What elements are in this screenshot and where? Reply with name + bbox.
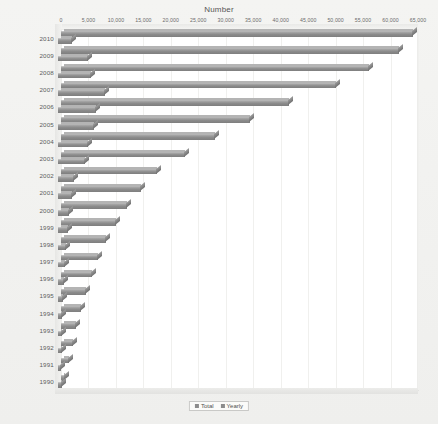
bar-top-face bbox=[61, 105, 96, 108]
x-tick-label: 55,000 bbox=[355, 17, 371, 23]
bar-top-face bbox=[64, 132, 215, 135]
bar-yearly-1996 bbox=[58, 279, 64, 285]
x-axis-tick-labels: 05,00010,00015,00020,00025,00030,00035,0… bbox=[0, 17, 438, 29]
bar-yearly-2007 bbox=[58, 90, 105, 96]
x-tick-label: 60,000 bbox=[382, 17, 398, 23]
x-tick-label: 15,000 bbox=[135, 17, 151, 23]
x-tick-label: 40,000 bbox=[272, 17, 288, 23]
bar-end-cap bbox=[61, 309, 66, 318]
y-tick-label: 2004 bbox=[39, 137, 54, 144]
bar-yearly-2003 bbox=[58, 159, 85, 165]
y-tick-label: 1990 bbox=[39, 378, 54, 385]
bar-yearly-2004 bbox=[58, 142, 88, 148]
bar-top-face bbox=[61, 54, 88, 57]
y-tick-label: 1997 bbox=[39, 258, 54, 265]
x-axis-title: Number bbox=[0, 5, 438, 14]
bar-top-face bbox=[64, 81, 336, 84]
bar-top-face bbox=[64, 201, 127, 204]
bar-top-face bbox=[64, 64, 369, 67]
bar-yearly-2010 bbox=[58, 38, 72, 44]
bar-top-face bbox=[61, 88, 105, 91]
y-tick-label: 2009 bbox=[39, 51, 54, 58]
x-tick-label: 25,000 bbox=[190, 17, 206, 23]
bar-yearly-2005 bbox=[58, 124, 94, 130]
bar-top-face bbox=[64, 253, 98, 256]
chart-legend[interactable]: TotalYearly bbox=[189, 401, 249, 411]
bar-end-cap bbox=[67, 224, 72, 233]
y-tick-label: 2010 bbox=[39, 34, 54, 41]
bar-top-face bbox=[64, 235, 106, 238]
bar-top-face bbox=[64, 167, 157, 170]
bar-yearly-1991 bbox=[58, 365, 61, 371]
legend-item-yearly[interactable]: Yearly bbox=[221, 403, 243, 409]
bar-top-face bbox=[64, 150, 185, 153]
y-tick-label: 1991 bbox=[39, 361, 54, 368]
x-tick-label: 20,000 bbox=[163, 17, 179, 23]
y-tick-label: 2003 bbox=[39, 154, 54, 161]
y-tick-label: 1999 bbox=[39, 223, 54, 230]
gridline bbox=[418, 29, 419, 390]
y-tick-label: 2007 bbox=[39, 86, 54, 93]
bar-yearly-1999 bbox=[58, 227, 68, 233]
bar-top-face bbox=[64, 184, 141, 187]
bar-yearly-1998 bbox=[58, 245, 66, 251]
bar-top-face bbox=[61, 71, 91, 74]
y-tick-label: 2008 bbox=[39, 68, 54, 75]
bar-top-face bbox=[61, 140, 88, 143]
bar-yearly-2009 bbox=[58, 56, 88, 62]
bar-top-face bbox=[64, 115, 250, 118]
bar-end-cap bbox=[249, 113, 254, 122]
y-axis-category-labels: 2010200920082007200620052004200320022001… bbox=[0, 29, 58, 390]
bar-top-face bbox=[61, 122, 94, 125]
bar-total-2009 bbox=[61, 48, 399, 54]
bar-top-face bbox=[64, 218, 116, 221]
bar-yearly-2008 bbox=[58, 73, 91, 79]
bar-top-face bbox=[64, 304, 81, 307]
bar-yearly-1992 bbox=[58, 348, 62, 354]
bar-top-face bbox=[64, 46, 399, 49]
y-tick-label: 2006 bbox=[39, 103, 54, 110]
x-tick-label: 50,000 bbox=[327, 17, 343, 23]
y-tick-label: 1992 bbox=[39, 344, 54, 351]
legend-label: Total bbox=[201, 403, 214, 409]
bar-yearly-1994 bbox=[58, 313, 62, 319]
x-tick-label: 35,000 bbox=[245, 17, 261, 23]
bar-yearly-2001 bbox=[58, 193, 72, 199]
y-tick-label: 2000 bbox=[39, 206, 54, 213]
x-tick-label: 5,000 bbox=[82, 17, 95, 23]
legend-swatch-icon bbox=[195, 404, 199, 408]
y-tick-label: 2001 bbox=[39, 189, 54, 196]
y-tick-label: 2002 bbox=[39, 172, 54, 179]
y-tick-label: 1993 bbox=[39, 326, 54, 333]
bar-end-cap bbox=[61, 378, 66, 387]
bar-total-2010 bbox=[61, 31, 413, 37]
bar-yearly-2006 bbox=[58, 107, 96, 113]
x-tick-label: 10,000 bbox=[108, 17, 124, 23]
chart-container: Number 05,00010,00015,00020,00025,00030,… bbox=[0, 0, 438, 424]
bar-top-face bbox=[64, 98, 289, 101]
bar-yearly-2000 bbox=[58, 210, 69, 216]
x-tick-label: 0 bbox=[60, 17, 63, 23]
bar-series-group bbox=[55, 29, 418, 390]
y-tick-label: 1998 bbox=[39, 240, 54, 247]
x-tick-label: 65,000 bbox=[410, 17, 426, 23]
bar-top-face bbox=[64, 29, 413, 32]
x-tick-label: 30,000 bbox=[218, 17, 234, 23]
bar-end-cap bbox=[105, 234, 110, 243]
bar-yearly-1997 bbox=[58, 262, 65, 268]
x-tick-label: 45,000 bbox=[300, 17, 316, 23]
bar-top-face bbox=[61, 157, 85, 160]
bar-end-cap bbox=[68, 206, 73, 215]
bar-total-2008 bbox=[61, 66, 369, 72]
bar-top-face bbox=[64, 287, 86, 290]
legend-label: Yearly bbox=[227, 403, 243, 409]
y-tick-label: 1994 bbox=[39, 309, 54, 316]
y-tick-label: 2005 bbox=[39, 120, 54, 127]
bar-yearly-2002 bbox=[58, 176, 74, 182]
bar-end-cap bbox=[75, 319, 80, 328]
bar-yearly-1990 bbox=[58, 382, 62, 388]
y-tick-label: 1996 bbox=[39, 275, 54, 282]
legend-item-total[interactable]: Total bbox=[195, 403, 214, 409]
bar-end-cap bbox=[95, 103, 100, 112]
y-tick-label: 1995 bbox=[39, 292, 54, 299]
